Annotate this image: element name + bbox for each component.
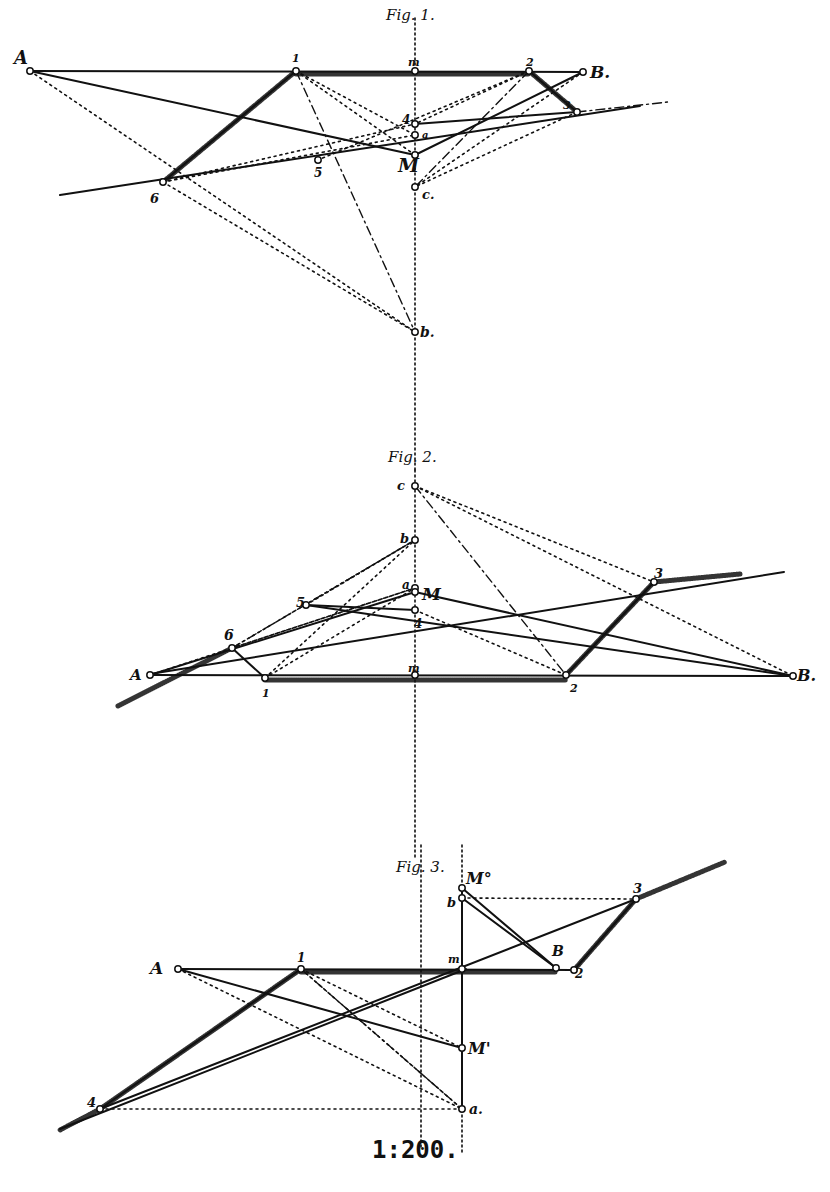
construction-line [100,899,636,1109]
point-marker [412,132,418,138]
construction-line [178,969,462,1048]
point-label: 2 [525,56,534,69]
point-label: m [448,953,460,966]
figure-3: M°b3B2A1mM'a.4Fig. 3. [60,845,725,1155]
dotted-projection-line [265,588,415,678]
construction-line [574,899,636,970]
point-label: a [422,129,428,140]
point-label: 6 [150,191,159,206]
construction-line [163,71,296,182]
figure-caption: Fig. 3. [395,858,445,876]
point-label: 6 [224,627,234,643]
figure-1: A1m2B.34aM56c.b.Fig. 1. [12,6,668,470]
point-marker [459,885,465,891]
point-marker [412,184,418,190]
point-marker [229,645,235,651]
point-label: 3 [563,99,571,112]
construction-line [306,605,793,676]
point-label: 2 [574,967,583,981]
point-marker [412,329,418,335]
point-marker [293,68,299,74]
point-marker [147,672,153,678]
point-marker [412,483,418,489]
point-marker [790,673,796,679]
point-label: 4 [402,113,410,127]
construction-line [30,71,583,72]
point-marker [459,1045,465,1051]
point-marker [412,589,418,595]
dash-dot-line [415,71,529,187]
figure-caption: Fig. 2. [387,448,437,466]
point-label: 1 [262,687,270,700]
dotted-projection-line [415,486,654,582]
point-label: M [397,154,420,176]
dotted-projection-line [30,71,415,332]
construction-line [178,969,574,970]
figure-caption: Fig. 1. [385,6,435,24]
dash-dot-line [577,102,668,112]
point-marker [553,965,559,971]
point-marker [175,966,181,972]
point-label: 1 [292,52,300,65]
point-label: M' [467,1039,491,1058]
point-marker [412,537,418,543]
point-marker [315,157,321,163]
point-label: 4 [87,1095,96,1110]
point-label: c. [422,187,434,202]
construction-line [30,71,415,155]
point-label: m [408,56,420,69]
point-label: M [421,584,442,604]
point-marker [160,179,166,185]
point-marker [412,121,418,127]
point-label: M° [465,869,492,888]
point-marker [412,607,418,613]
point-marker [574,109,580,115]
point-marker [563,672,569,678]
point-label: A [148,958,163,978]
dotted-projection-line [415,72,583,187]
point-label: b [400,531,409,546]
point-marker [633,896,639,902]
point-label: b. [420,324,435,340]
construction-line [150,675,793,676]
dotted-projection-line [462,898,636,899]
geometric-construction-diagram: A1m2B.34aM56c.b.Fig. 1. cbaM4536Am12B.Fi… [0,0,830,1192]
point-label: 4 [414,617,422,631]
construction-line [462,898,556,968]
point-label: a [402,578,410,592]
dotted-projection-line [163,135,415,182]
point-label: 3 [633,881,642,896]
point-marker [97,1106,103,1112]
dash-dot-line [296,71,415,332]
point-label: A [12,47,28,68]
dotted-projection-line [318,71,529,160]
point-label: B. [796,666,816,685]
point-label: m [408,662,420,675]
point-label: 5 [314,166,322,180]
point-label: 3 [654,566,663,581]
point-marker [459,1106,465,1112]
point-label: b [447,895,456,910]
point-label: c [397,478,405,493]
point-marker [580,69,586,75]
construction-line [415,112,577,124]
construction-line [232,648,265,678]
figure-2: cbaM4536Am12B.Fig. 2. [118,448,816,860]
point-label: A [128,666,142,684]
point-label: B. [589,62,610,82]
point-marker [459,966,465,972]
point-label: a. [469,1101,483,1117]
dash-dot-line [232,540,415,648]
construction-line [60,106,640,195]
dotted-projection-line [415,112,577,187]
dash-dot-line [415,486,566,675]
point-marker [298,966,304,972]
point-marker [27,68,33,74]
point-label: 5 [296,595,305,610]
point-marker [459,895,465,901]
dotted-projection-line [296,71,415,135]
terrain-profile-line [636,862,725,899]
dotted-projection-line [163,182,415,332]
point-marker [262,675,268,681]
dash-dot-line [301,969,462,1109]
